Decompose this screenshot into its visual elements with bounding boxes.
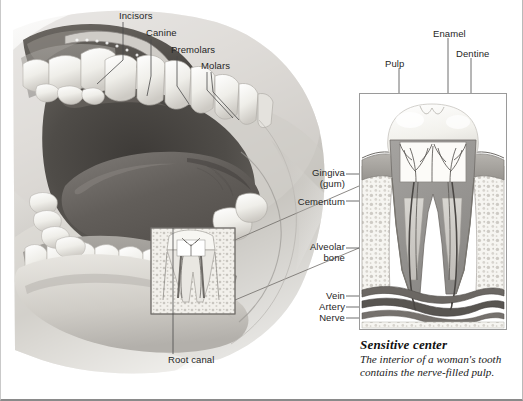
label-alveolar-bone: Alveolar bone [283, 241, 345, 263]
label-vein: Vein [301, 290, 345, 301]
label-artery: Artery [297, 301, 345, 312]
caption-body: The interior of a woman's tooth contains… [360, 353, 520, 379]
upper-molar-2 [239, 83, 258, 124]
label-cementum: Cementum [277, 196, 345, 207]
label-canine: Canine [146, 27, 177, 38]
tooth-cross-section-inset [359, 93, 507, 330]
label-pulp: Pulp [385, 58, 404, 69]
figure-root: Incisors Canine Premolars Molars Root ca… [0, 0, 523, 401]
label-root-canal: Root canal [168, 354, 214, 365]
upper-molar-1 [215, 74, 239, 119]
label-premolars: Premolars [171, 44, 215, 55]
caption-title: Sensitive center [360, 337, 520, 352]
label-gingiva: Gingiva (gum) [281, 167, 345, 189]
label-incisors: Incisors [119, 10, 153, 21]
label-molars: Molars [201, 60, 230, 71]
upper-molar-3 [258, 93, 273, 127]
lower-molar-right-2 [236, 193, 268, 222]
jaw-cutaway [151, 228, 235, 314]
label-nerve: Nerve [298, 312, 345, 323]
label-enamel: Enamel [433, 28, 466, 39]
tooth-cross-section-art [360, 94, 506, 329]
label-dentine: Dentine [456, 48, 489, 59]
caption-block: Sensitive center The interior of a woman… [360, 337, 520, 379]
